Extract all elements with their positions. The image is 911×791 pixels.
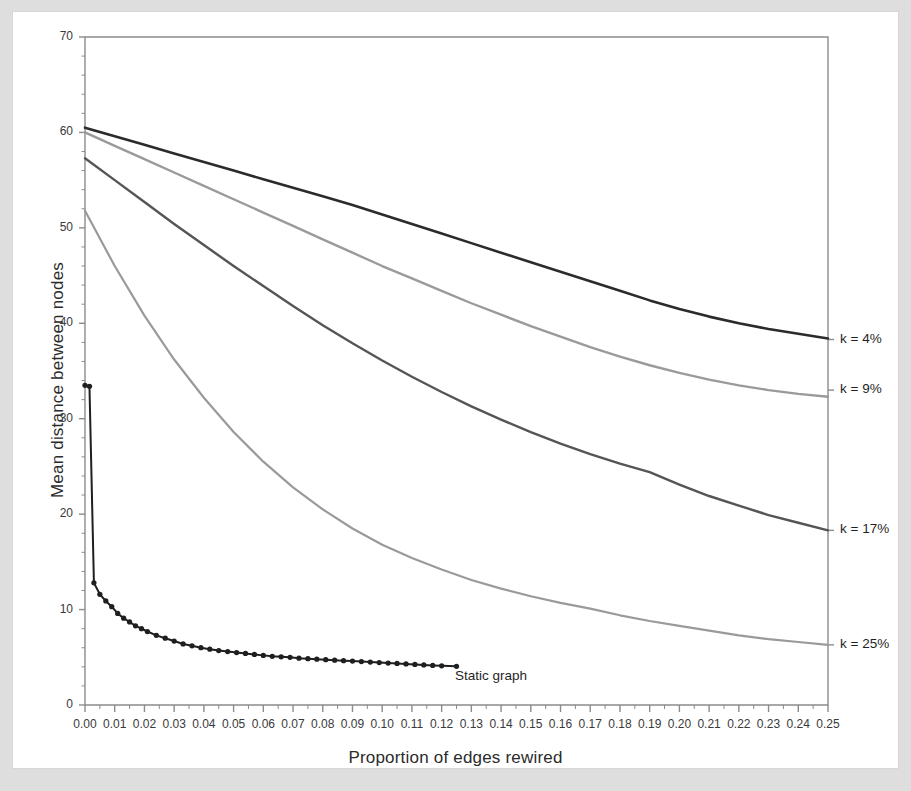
y-tick-label: 30 (39, 411, 73, 425)
series-label-k-9-: k = 9% (840, 381, 882, 396)
y-axis-title: Mean distance between nodes (48, 210, 68, 550)
static-graph-annotation: Static graph (455, 668, 527, 683)
series-k-25- (85, 211, 828, 645)
series-label-k-17-: k = 17% (840, 521, 889, 536)
y-tick-label: 20 (39, 506, 73, 520)
axis-ticks (79, 37, 834, 712)
data-series-layer (82, 128, 828, 669)
series-k-9- (85, 132, 828, 396)
y-tick-label: 60 (39, 124, 73, 138)
y-tick-label: 40 (39, 315, 73, 329)
x-tick-label: 0.25 (808, 717, 848, 731)
series-label-k-4-: k = 4% (840, 331, 882, 346)
series-label-k-25-: k = 25% (840, 636, 889, 651)
x-axis-title: Proportion of edges rewired (0, 748, 911, 768)
y-tick-label: 70 (39, 29, 73, 43)
series-static-graph (82, 383, 459, 669)
y-tick-label: 50 (39, 220, 73, 234)
y-tick-label: 0 (39, 697, 73, 711)
axes-frame (85, 37, 828, 705)
y-tick-label: 10 (39, 602, 73, 616)
series-k-4- (85, 128, 828, 339)
series-k-17- (85, 158, 828, 530)
figure-root: Mean distance between nodes Proportion o… (0, 0, 911, 791)
